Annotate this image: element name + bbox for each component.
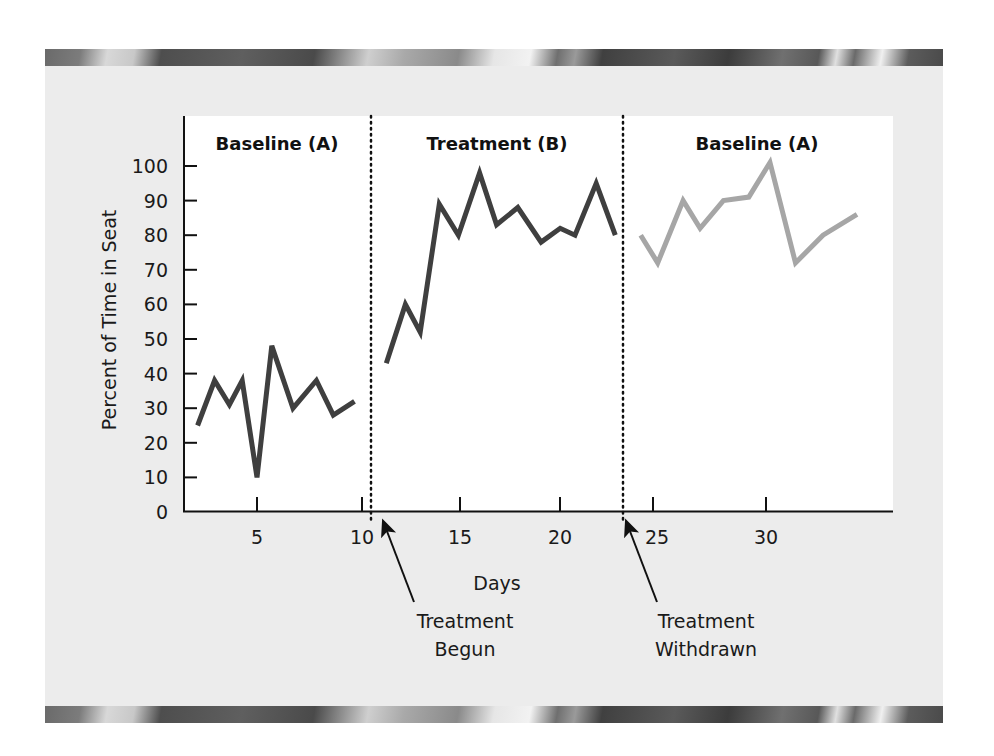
y-tick-label: 50 xyxy=(144,328,168,350)
y-tick-label: 100 xyxy=(132,155,168,177)
x-tick-label: 10 xyxy=(350,526,374,548)
phase-label-baseline-1: Baseline (A) xyxy=(216,133,339,154)
x-tick-label: 15 xyxy=(448,526,472,548)
x-tick-label: 20 xyxy=(548,526,572,548)
annotation-treatment-begun-line2: Begun xyxy=(435,638,496,660)
y-tick-label: 90 xyxy=(144,190,168,212)
y-tick-label: 80 xyxy=(144,224,168,246)
x-axis-title: Days xyxy=(473,572,520,594)
annotation-treatment-begun-line1: Treatment xyxy=(416,610,514,632)
y-tick-label: 0 xyxy=(156,501,168,523)
annotation-treatment-withdrawn-line2: Withdrawn xyxy=(655,638,757,660)
annotation-treatment-withdrawn-line1: Treatment xyxy=(657,610,755,632)
y-tick-label: 10 xyxy=(144,466,168,488)
y-tick-label: 30 xyxy=(144,397,168,419)
line-chart: Percent of Time in Seat 0102030405060708… xyxy=(0,0,994,756)
x-tick-label: 25 xyxy=(645,526,669,548)
y-tick-label: 40 xyxy=(144,363,168,385)
y-axis-title: Percent of Time in Seat xyxy=(98,210,120,431)
phase-label-treatment: Treatment (B) xyxy=(427,133,568,154)
x-tick-label: 5 xyxy=(251,526,263,548)
plot-area xyxy=(184,116,893,511)
y-tick-label: 60 xyxy=(144,293,168,315)
y-tick-label: 20 xyxy=(144,432,168,454)
arrow-treatment-begun-icon xyxy=(385,526,414,602)
x-tick-label: 30 xyxy=(754,526,778,548)
y-tick-label: 70 xyxy=(144,259,168,281)
phase-label-baseline-2: Baseline (A) xyxy=(696,133,819,154)
